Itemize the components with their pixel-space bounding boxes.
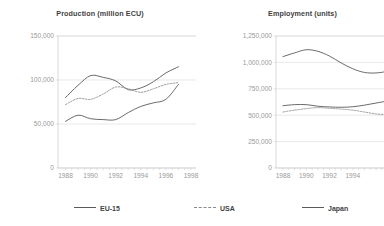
line-dashed-icon: [194, 207, 216, 209]
y-axis-tick-label: 100,000: [30, 76, 54, 83]
legend-label-usa: USA: [220, 205, 235, 212]
legend-label-eu15: EU-15: [100, 205, 120, 212]
data-series-line: [66, 67, 179, 98]
y-axis-tick-label: 50,000: [34, 120, 54, 127]
legend-item-eu15[interactable]: EU-15: [74, 190, 120, 226]
y-axis-tick-label: 1,250,000: [243, 32, 272, 39]
line-solid-icon: [302, 207, 324, 209]
data-series-line: [283, 50, 384, 73]
data-series-line: [66, 84, 179, 121]
x-axis-tick-label: 1992: [102, 172, 130, 179]
chart-panel-employment: Employment (units) 0250,000500,000750,00…: [200, 0, 384, 190]
figure-root: Production (million ECU) 050,000100,0001…: [0, 0, 384, 226]
y-axis-tick-label: 1,000,000: [243, 59, 272, 66]
y-axis-tick-label: 150,000: [30, 32, 54, 39]
y-axis-tick-label: 0: [50, 164, 54, 171]
x-axis-tick-label: 1994: [339, 172, 367, 179]
legend-item-usa[interactable]: USA: [194, 190, 235, 226]
data-series-line: [283, 101, 384, 107]
plot-area-employment: [200, 0, 384, 190]
plot-area-production: [0, 0, 200, 190]
y-axis-tick-label: 750,000: [248, 85, 272, 92]
chart-panel-production: Production (million ECU) 050,000100,0001…: [0, 0, 200, 190]
x-axis-tick-label: 1988: [52, 172, 80, 179]
y-axis-tick-label: 0: [268, 164, 272, 171]
y-axis-tick-label: 500,000: [248, 112, 272, 119]
x-axis-tick-label: 1994: [127, 172, 155, 179]
chart-legend: EU-15 USA Japan: [0, 190, 384, 226]
line-solid-icon: [74, 207, 96, 209]
data-series-line: [283, 108, 384, 115]
x-axis-tick-label: 1990: [77, 172, 105, 179]
legend-label-japan: Japan: [328, 205, 348, 212]
y-axis-tick-label: 250,000: [248, 138, 272, 145]
x-axis-tick-label: 1996: [152, 172, 180, 179]
legend-item-japan[interactable]: Japan: [302, 190, 348, 226]
